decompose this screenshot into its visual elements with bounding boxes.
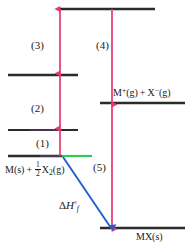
- diagram-canvas: [0, 0, 193, 249]
- step-label-1: (1): [36, 138, 49, 149]
- formation-subscript: f: [77, 204, 79, 213]
- cation-symbol: M: [113, 87, 122, 98]
- born-haber-cycle-diagram: (3) (4) (2) (1) (5) M(s)+12X2(g) M+(g)+X…: [0, 0, 193, 249]
- stoichiometric-fraction-one-half: 12: [35, 161, 41, 178]
- reactant-halogen-symbol: X: [42, 164, 49, 175]
- reactant-halogen-state: (g): [53, 164, 65, 175]
- anion-symbol: X: [147, 87, 154, 98]
- step-label-4: (4): [96, 40, 109, 51]
- reactant-metal: M(s): [5, 164, 24, 175]
- enthalpy-symbol: H: [66, 199, 74, 211]
- label-ionic-solid: MX(s): [136, 232, 163, 242]
- step-label-2: (2): [31, 103, 44, 114]
- anion-state: (g): [159, 87, 171, 98]
- ions-plus-sign: +: [140, 87, 146, 98]
- step-label-3: (3): [31, 40, 44, 51]
- reactant-plus-sign: +: [26, 164, 32, 175]
- label-enthalpy-of-formation: ΔH°f: [59, 200, 79, 213]
- cation-state: (g): [126, 87, 138, 98]
- label-gaseous-ions: M+(g)+X−(g): [113, 87, 171, 98]
- label-elements-standard-state: M(s)+12X2(g): [5, 161, 65, 178]
- step-label-5: (5): [93, 162, 106, 173]
